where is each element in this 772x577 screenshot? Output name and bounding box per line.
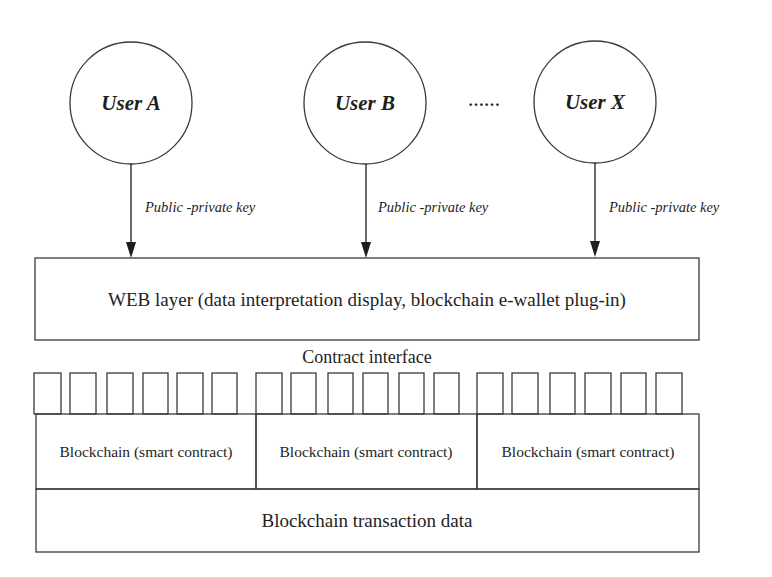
arrowhead-user-x bbox=[590, 241, 600, 257]
contract-interface-label: Contract interface bbox=[302, 348, 431, 366]
arrowhead-user-a bbox=[126, 242, 136, 258]
smart-contract-label-1: Blockchain (smart contract) bbox=[59, 444, 232, 460]
smart-contract-label-3: Blockchain (smart contract) bbox=[501, 444, 674, 460]
key-label-user-b: Public -private key bbox=[378, 200, 488, 215]
more-users-ellipsis: …… bbox=[468, 93, 500, 109]
arrowhead-user-b bbox=[361, 242, 371, 258]
key-label-user-a: Public -private key bbox=[145, 200, 255, 215]
contract-interface-slots bbox=[34, 373, 682, 414]
user-a-label: User A bbox=[101, 93, 160, 114]
web-layer-label: WEB layer (data interpretation display, … bbox=[108, 290, 626, 309]
key-label-user-x: Public -private key bbox=[609, 200, 719, 215]
transaction-data-label: Blockchain transaction data bbox=[261, 511, 472, 530]
user-b-label: User B bbox=[335, 93, 395, 114]
user-x-label: User X bbox=[565, 92, 625, 113]
smart-contract-label-2: Blockchain (smart contract) bbox=[279, 444, 452, 460]
